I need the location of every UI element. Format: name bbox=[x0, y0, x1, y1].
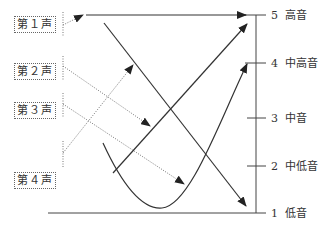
scale-label-1: 1 低音 bbox=[271, 207, 307, 220]
pointer-tone-1 bbox=[63, 15, 83, 25]
scale-label-4: 4 中高音 bbox=[271, 57, 318, 70]
scale-label-5: 5 高音 bbox=[271, 9, 307, 22]
tone-label-4: 第４声 bbox=[14, 172, 56, 189]
tone-label-1: 第１声 bbox=[14, 16, 56, 33]
pointer-tone-2 bbox=[63, 66, 150, 126]
scale-label-2: 2 中低音 bbox=[271, 160, 318, 173]
pointer-tone-4 bbox=[63, 65, 133, 153]
tone-2-contour bbox=[113, 24, 247, 173]
pointer-tone-3 bbox=[63, 104, 184, 184]
tone-label-2: 第２声 bbox=[14, 63, 56, 80]
tone-3-contour bbox=[103, 64, 247, 208]
scale-label-3: 3 中音 bbox=[271, 112, 307, 125]
tone-label-3: 第３声 bbox=[14, 102, 56, 119]
